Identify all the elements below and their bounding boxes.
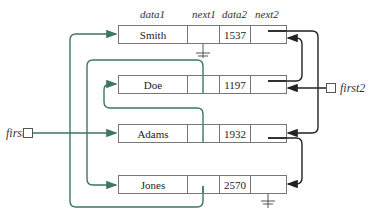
node-data1: Adams bbox=[118, 124, 188, 143]
node-next2 bbox=[250, 75, 287, 94]
node-next1 bbox=[187, 175, 220, 194]
node-next1 bbox=[187, 75, 220, 94]
node-next1 bbox=[187, 124, 220, 143]
first1-pointer-box bbox=[23, 128, 33, 138]
header-next1: next1 bbox=[192, 8, 216, 20]
node-next2 bbox=[250, 175, 287, 194]
node-next2 bbox=[250, 124, 287, 143]
node-data1: Doe bbox=[118, 75, 188, 94]
header-data2: data2 bbox=[222, 8, 247, 20]
node-data1: Jones bbox=[118, 175, 188, 194]
node-data1: Smith bbox=[118, 25, 188, 44]
node-next1 bbox=[187, 25, 220, 44]
first2-label: first2 bbox=[340, 81, 365, 96]
smith-next1-null-icon bbox=[196, 43, 210, 58]
first2-pointer-box bbox=[326, 83, 336, 93]
header-data1: data1 bbox=[140, 8, 165, 20]
header-next2: next2 bbox=[255, 8, 279, 20]
node-data2: 1197 bbox=[219, 75, 251, 94]
node-next2 bbox=[250, 25, 287, 44]
jones-next2-null-icon bbox=[261, 193, 275, 208]
node-data2: 1537 bbox=[219, 25, 251, 44]
node-data2: 1932 bbox=[219, 124, 251, 143]
node-data2: 2570 bbox=[219, 175, 251, 194]
